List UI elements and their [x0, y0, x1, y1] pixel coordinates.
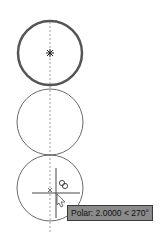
polar-tooltip: Polar: 2.0000 < 270° [67, 205, 153, 221]
cursor-arrow-icon [57, 194, 65, 207]
center-snap-icon [46, 49, 54, 57]
copy-glyph-icon [59, 180, 67, 188]
